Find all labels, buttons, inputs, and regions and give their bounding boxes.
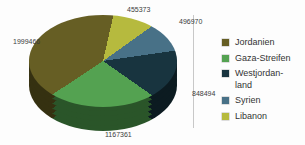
legend-swatch-gaza-streifen	[222, 55, 229, 62]
legend-label-jordanien: Jordanien	[235, 37, 293, 49]
legend-swatch-syrien	[222, 97, 229, 104]
legend-swatch-westjordanland	[222, 70, 229, 77]
chart-legend: JordanienGaza-StreifenWestjordan-landSyr…	[222, 37, 293, 122]
pie-chart-figure: 1999466 1167361 848494 496970 455373 Jor…	[0, 0, 305, 145]
legend-label-gaza-streifen: Gaza-Streifen	[235, 53, 293, 65]
legend-item-gaza-streifen: Gaza-Streifen	[222, 53, 293, 65]
legend-item-libanon: Libanon	[222, 111, 293, 123]
legend-item-westjordanland: Westjordan-land	[222, 68, 293, 91]
value-label-gaza-streifen: 1167361	[105, 131, 132, 139]
legend-item-jordanien: Jordanien	[222, 37, 293, 49]
value-label-syrien: 496970	[179, 18, 202, 26]
legend-label-libanon: Libanon	[235, 111, 293, 123]
value-label-westjordanland: 848494	[192, 90, 215, 98]
legend-label-westjordanland: Westjordan-land	[235, 68, 293, 91]
pie-top-face	[29, 15, 177, 107]
legend-swatch-libanon	[222, 113, 229, 120]
legend-item-syrien: Syrien	[222, 95, 293, 107]
legend-label-syrien: Syrien	[235, 95, 293, 107]
legend-swatch-jordanien	[222, 39, 229, 46]
value-label-jordanien: 1999466	[13, 38, 40, 46]
value-label-libanon: 455373	[127, 6, 150, 14]
